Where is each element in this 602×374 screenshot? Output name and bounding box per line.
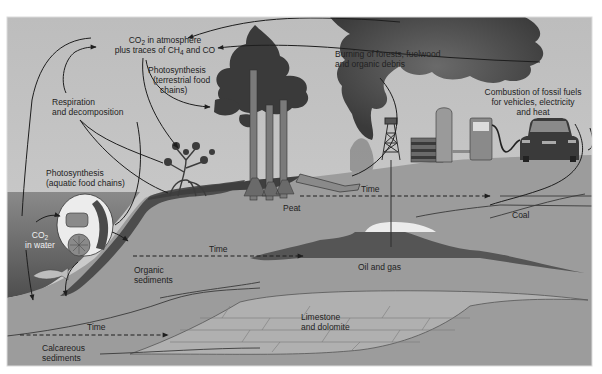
label-limestone-dolomite: Limestone and dolomite bbox=[301, 312, 350, 332]
label-time-peat: Time bbox=[361, 184, 380, 194]
label-organic-sediments: Organic sediments bbox=[134, 265, 173, 285]
label-co2-atmosphere: CO2 in atmosphere plus traces of CH4 and… bbox=[100, 35, 230, 55]
label-peat: Peat bbox=[283, 203, 301, 213]
label-co2-water: CO2 in water bbox=[20, 230, 60, 250]
label-time-organic: Time bbox=[209, 244, 228, 254]
label-time-calcareous: Time bbox=[87, 322, 106, 332]
plankton-inset bbox=[57, 194, 113, 256]
label-coal: Coal bbox=[512, 210, 529, 220]
label-burning: Burning of forests, fuelwood and organic… bbox=[335, 49, 440, 69]
label-calcareous-sediments: Calcareous sediments bbox=[42, 343, 85, 363]
label-photosynthesis-terrestrial: Photosynthesis (terrestrial food chains) bbox=[148, 65, 210, 95]
label-respiration: Respiration and decomposition bbox=[52, 97, 123, 117]
label-photosynthesis-aquatic: Photosynthesis (aquatic food chains) bbox=[46, 168, 125, 188]
label-oil-and-gas: Oil and gas bbox=[358, 262, 401, 272]
carbon-cycle-diagram: CO2 in atmosphere plus traces of CH4 and… bbox=[0, 0, 602, 374]
label-combustion: Combustion of fossil fuels for vehicles,… bbox=[478, 87, 588, 117]
